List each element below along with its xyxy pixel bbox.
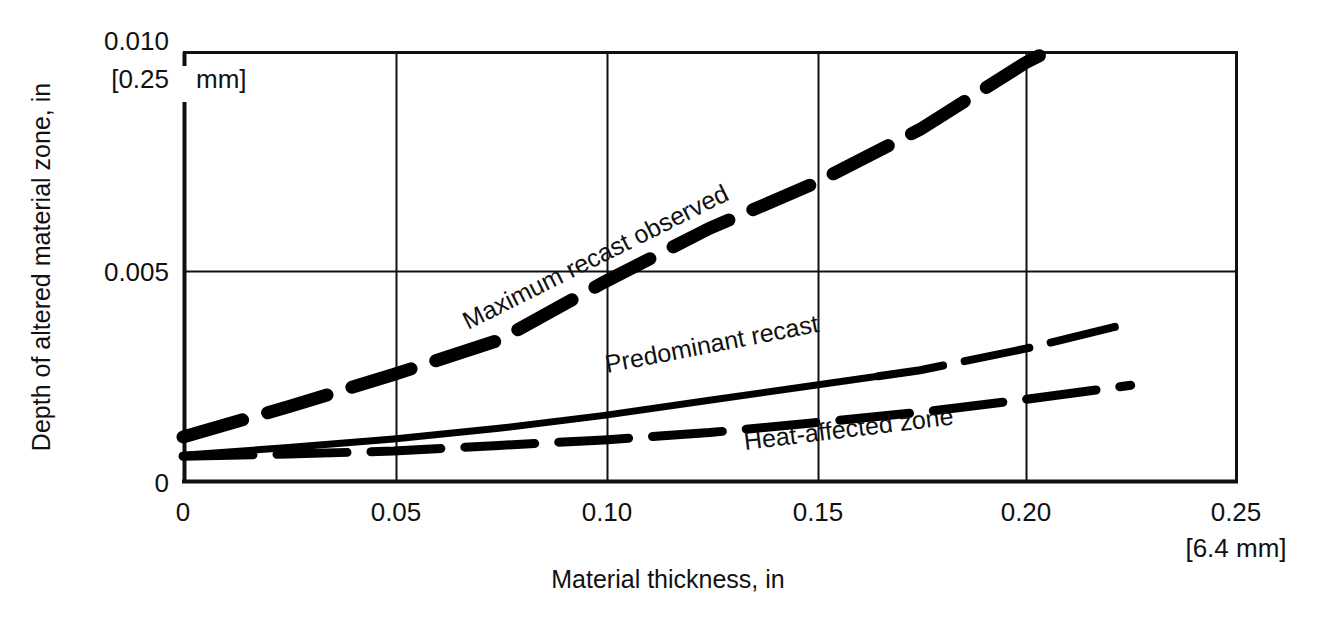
y-tick-label-0.005: 0.005 xyxy=(104,257,169,287)
x-tick-label-0.05: 0.05 xyxy=(371,497,422,527)
x-tick-label-0.15: 0.15 xyxy=(793,497,844,527)
x-tick-label-0: 0 xyxy=(176,497,190,527)
x-tick-label-0.25: 0.25 xyxy=(1211,497,1262,527)
x-tick-label-0.10: 0.10 xyxy=(582,497,633,527)
y-axis-title: Depth of altered material zone, in xyxy=(27,83,55,451)
x-tick-label-0.20: 0.20 xyxy=(1001,497,1052,527)
y-axis-unit-note-mm: mm] xyxy=(196,64,247,94)
chart-svg: 0.010 [0.25 mm] 0.005 0 0 0.05 0.10 0.15… xyxy=(0,0,1335,624)
y-tick-label-0.010: 0.010 xyxy=(104,26,169,56)
x-axis-title: Material thickness, in xyxy=(551,565,784,593)
chart-figure: 0.010 [0.25 mm] 0.005 0 0 0.05 0.10 0.15… xyxy=(0,0,1335,624)
y-tick-label-0: 0 xyxy=(155,468,169,498)
y-axis-unit-note-value: [0.25 xyxy=(111,64,169,94)
x-axis-unit-note: [6.4 mm] xyxy=(1185,533,1286,563)
